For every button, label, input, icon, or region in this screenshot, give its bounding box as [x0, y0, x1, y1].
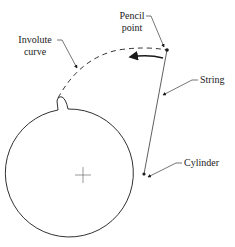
- involute-leader: [57, 40, 77, 68]
- cylinder-label: Cylinder: [184, 157, 219, 169]
- involute-label-line2: curve: [14, 46, 56, 58]
- pencil-point-label-line2: point: [112, 22, 152, 34]
- involute-curve-label: Involute curve: [14, 34, 56, 58]
- pencil-point-label-line1: Pencil: [112, 10, 152, 22]
- string-leader: [163, 80, 198, 95]
- involute-label-line1: Involute: [14, 34, 56, 46]
- tangent-point-dot: [142, 172, 145, 175]
- pencil-point-dot: [165, 48, 169, 52]
- cylinder-outline: [5, 109, 133, 237]
- string-label: String: [200, 74, 224, 86]
- involute-diagram: Pencil point Involute curve String Cylin…: [0, 0, 235, 247]
- string-anchor-knob: [57, 97, 68, 110]
- cylinder-leader: [148, 163, 182, 177]
- center-cross: [75, 167, 91, 183]
- direction-arrow: [130, 56, 163, 58]
- string-line: [144, 50, 167, 174]
- pencil-point-label: Pencil point: [112, 10, 152, 34]
